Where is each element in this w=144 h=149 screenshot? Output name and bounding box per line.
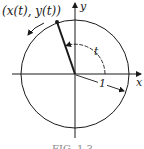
- x-axis-label: x: [136, 76, 143, 89]
- y-axis-label: y: [79, 0, 87, 13]
- angle-arc: [66, 44, 105, 74]
- point-label: (x(t), y(t)): [2, 4, 61, 18]
- radius-label: 1: [99, 77, 106, 90]
- unit-circle-diagram: (x(t), y(t)) y x t 1 FIG. 1.3: [0, 0, 144, 149]
- figure-caption: FIG. 1.3: [52, 143, 93, 149]
- point-dot: [55, 20, 59, 24]
- angle-label: t: [94, 45, 99, 58]
- motion-arrow: [28, 23, 44, 35]
- radius-to-point: [57, 22, 75, 74]
